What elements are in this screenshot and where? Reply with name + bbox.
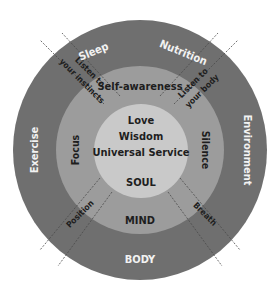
label-soul: SOUL [126,176,157,189]
label-silence: Silence [200,131,212,169]
label-universal-service: Universal Service [92,146,189,159]
label-exercise: Exercise [28,126,41,173]
body-mind-soul-diagram: Sleep Nutrition Exercise Environment BOD… [0,0,280,299]
label-self-awareness: Self-awareness [97,80,182,93]
label-focus: Focus [69,134,81,165]
label-wisdom: Wisdom [119,130,163,143]
label-environment: Environment [241,114,254,185]
label-love: Love [128,114,155,127]
label-body: BODY [125,253,156,266]
label-mind: MIND [125,214,155,227]
